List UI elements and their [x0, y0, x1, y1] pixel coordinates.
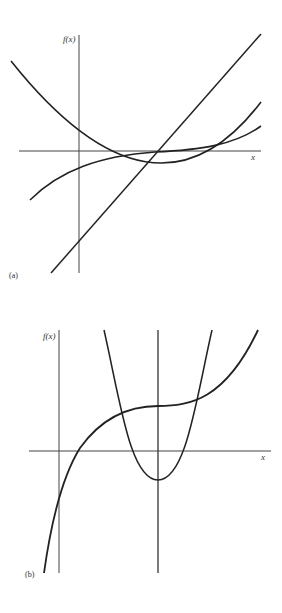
panel-a-line	[51, 34, 261, 273]
panel-b-label: (b)	[25, 570, 34, 579]
figure	[0, 0, 282, 613]
panel-a-cubic	[30, 126, 261, 200]
panel-b-xlabel: x	[261, 452, 265, 462]
panel-a-xlabel: x	[251, 152, 255, 162]
panel-a-ylabel: f(x)	[63, 34, 76, 44]
panel-b-ylabel: f(x)	[43, 331, 56, 341]
panel-b	[29, 330, 271, 573]
panel-a	[11, 34, 261, 273]
panel-a-label: (a)	[9, 271, 18, 280]
